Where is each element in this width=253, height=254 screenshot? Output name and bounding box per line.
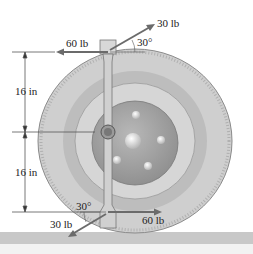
lug-nut <box>144 162 152 170</box>
diagram-graphic <box>0 0 253 254</box>
diagram-canvas: 30 lb 60 lb 30° 16 in 16 in 30° 30 lb 60… <box>0 0 253 254</box>
lug-nut <box>132 111 140 119</box>
dimension-label-upper: 16 in <box>15 85 37 97</box>
force-label-bottom-horizontal: 60 lb <box>142 214 164 226</box>
dimension-label-lower: 16 in <box>15 166 37 178</box>
ground <box>0 232 253 254</box>
force-label-top-horizontal: 60 lb <box>66 37 88 49</box>
force-label-top-angled: 30 lb <box>157 17 179 29</box>
force-label-bottom-angled: 30 lb <box>50 218 72 230</box>
hub-center-cap <box>125 133 141 149</box>
angle-label-top: 30° <box>137 36 152 48</box>
angle-label-bottom: 30° <box>76 200 91 212</box>
lug-nut <box>157 136 165 144</box>
lug-nut <box>113 156 121 164</box>
